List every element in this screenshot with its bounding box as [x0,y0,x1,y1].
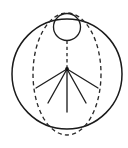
sphere-diagram [0,0,128,148]
figure-container [0,0,128,148]
pole-circle [54,14,81,41]
ray-bundle [36,69,98,112]
apex-point [65,67,69,71]
